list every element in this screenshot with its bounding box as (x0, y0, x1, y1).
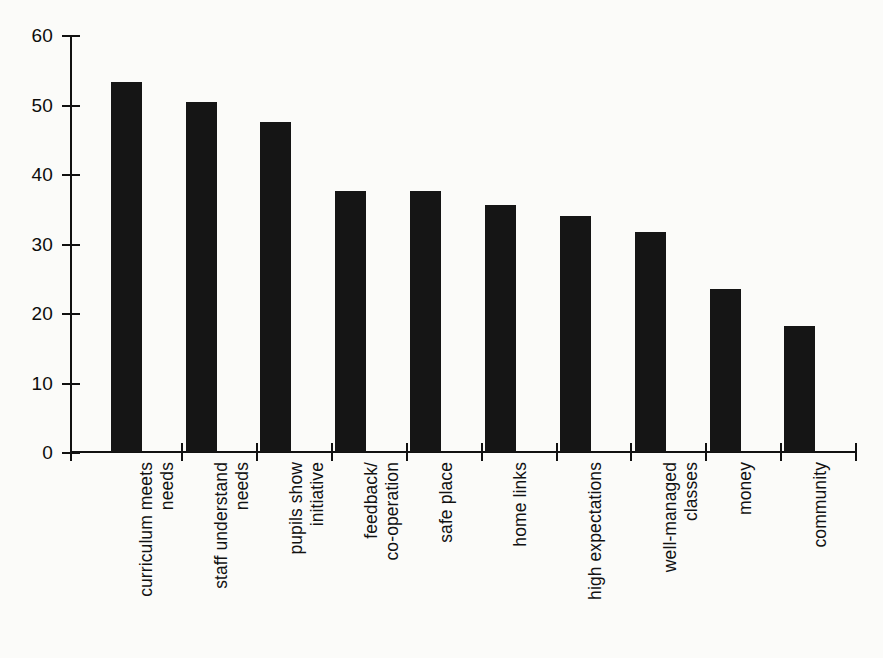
bar-chart: 0102030405060 curriculum meets needsstaf… (0, 0, 883, 658)
x-tick (556, 443, 558, 461)
bar (111, 82, 142, 452)
bar (560, 216, 591, 452)
bar (635, 232, 666, 452)
x-tick (256, 443, 258, 461)
bar (260, 122, 291, 452)
y-tick: 10 (62, 383, 80, 385)
x-category-label: curriculum meets needs (136, 462, 178, 652)
y-tick: 40 (62, 174, 80, 176)
x-category-label: well-managed classes (660, 462, 702, 652)
bar (410, 191, 441, 452)
y-tick-label: 40 (31, 164, 53, 186)
bar (485, 205, 516, 452)
x-category-label: pupils show initiative (286, 462, 328, 652)
x-category-label: high expectations (585, 462, 606, 652)
y-tick: 30 (62, 244, 80, 246)
bar (186, 102, 217, 452)
x-category-label: safe place (436, 462, 457, 652)
x-category-label: money (735, 462, 756, 652)
y-tick: 50 (62, 105, 80, 107)
y-tick: 60 (62, 35, 80, 37)
y-tick-label: 0 (42, 442, 53, 464)
x-category-label: feedback/ co-operation (361, 462, 403, 652)
x-tick (70, 443, 72, 461)
x-tick (481, 443, 483, 461)
x-tick (780, 443, 782, 461)
y-tick-label: 10 (31, 373, 53, 395)
x-tick (181, 443, 183, 461)
y-tick-label: 50 (31, 95, 53, 117)
y-tick-label: 20 (31, 303, 53, 325)
x-category-label: staff understand needs (211, 462, 253, 652)
x-category-label: home links (510, 462, 531, 652)
x-category-label: community (810, 462, 831, 652)
x-tick (705, 443, 707, 461)
x-tick (630, 443, 632, 461)
y-tick: 20 (62, 313, 80, 315)
x-tick (406, 443, 408, 461)
bar (335, 191, 366, 452)
x-tick (331, 443, 333, 461)
y-tick-label: 60 (31, 25, 53, 47)
bar (710, 289, 741, 452)
bar (784, 326, 815, 452)
x-tick (855, 443, 857, 461)
y-tick-label: 30 (31, 234, 53, 256)
